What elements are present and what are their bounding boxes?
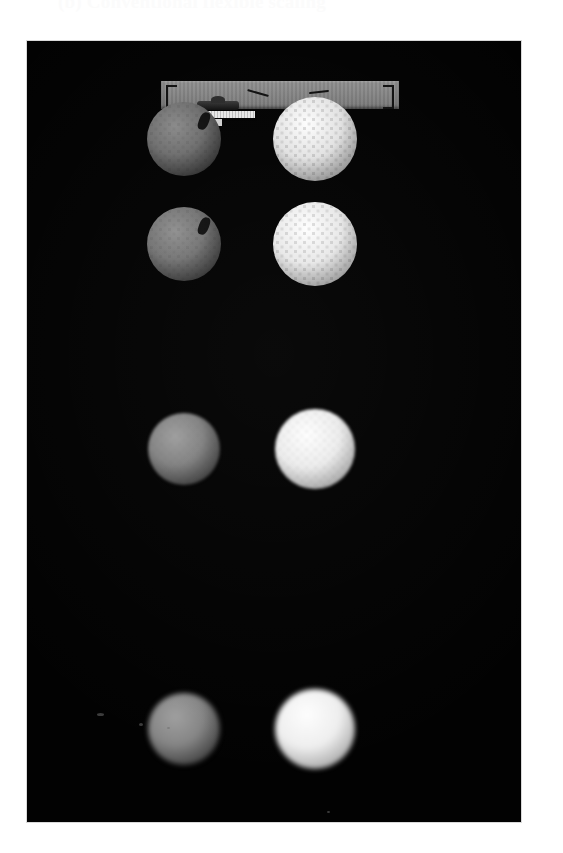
ball-dimple-texture	[273, 202, 357, 286]
ball-left-row-2	[147, 207, 221, 281]
ball-dimple-texture	[148, 413, 220, 485]
background-speck-2	[139, 723, 143, 726]
rail-tick-mark-1	[247, 89, 269, 97]
ball-right-row-4	[275, 689, 355, 769]
ball-dimple-texture	[275, 689, 355, 769]
figure-caption-text: (b) Conventional flexible scaling	[58, 0, 326, 13]
ball-right-row-1	[273, 97, 357, 181]
ball-dimple-texture	[273, 97, 357, 181]
rail-tick-mark-2	[309, 90, 329, 94]
figure-caption: (b) Conventional flexible scaling	[0, 0, 563, 24]
ball-right-row-2	[273, 202, 357, 286]
ball-left-row-3	[148, 413, 220, 485]
ball-dimple-texture	[148, 693, 220, 765]
ball-dimple-texture	[275, 409, 355, 489]
background-speck-1	[97, 713, 104, 716]
ball-left-row-4	[148, 693, 220, 765]
background-speck-4	[327, 811, 330, 813]
ball-right-row-3	[275, 409, 355, 489]
ball-left-row-1	[147, 102, 221, 176]
background-speck-3	[167, 727, 170, 729]
rail-right-bracket-icon	[383, 85, 394, 109]
photograph-panel	[27, 41, 521, 822]
